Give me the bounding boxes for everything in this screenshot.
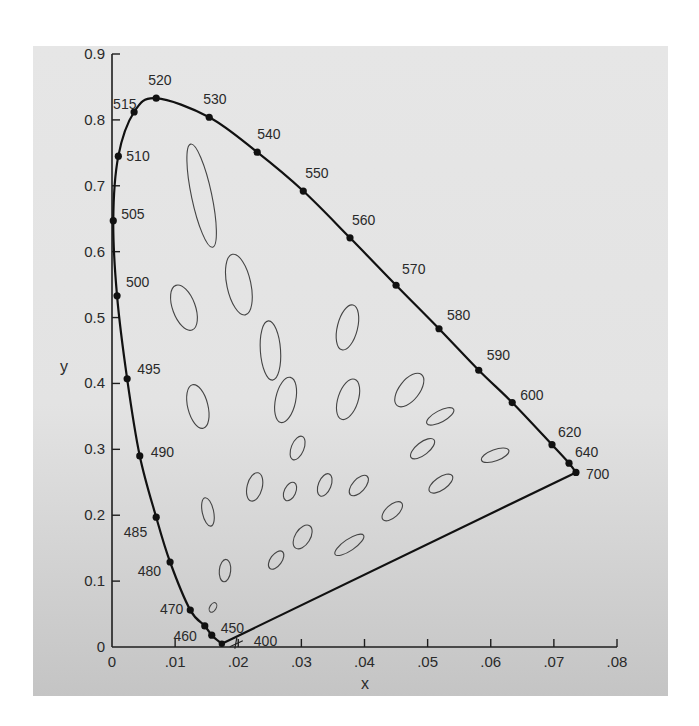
wavelength-label: 580 (447, 307, 471, 323)
wavelength-point (110, 217, 117, 224)
y-tick-label: 0.4 (84, 374, 105, 391)
x-tick-label: .04 (354, 653, 375, 670)
y-tick-label: 0.3 (84, 440, 105, 457)
macadam-ellipse (389, 368, 429, 412)
macadam-ellipse (265, 548, 287, 572)
y-tick-label: 0.9 (84, 45, 105, 62)
x-axis-title: x (361, 675, 369, 692)
wavelength-point (136, 452, 143, 459)
wavelength-point (219, 641, 225, 647)
wavelength-label: 530 (203, 91, 227, 107)
y-tick-label: 0.8 (84, 111, 105, 128)
x-tick-label: 0 (108, 653, 116, 670)
wavelength-label: 450 (221, 620, 245, 636)
y-tick-label: 0.1 (84, 572, 105, 589)
wavelength-label: 600 (520, 387, 544, 403)
wavelength-label: 470 (160, 601, 184, 617)
wavelength-point (153, 95, 160, 102)
wavelength-point (300, 187, 307, 194)
ellipse-group (165, 142, 511, 614)
y-tick-label: 0 (97, 638, 105, 655)
x-tick-label: .08 (607, 653, 628, 670)
wavelength-label: 400 (254, 633, 278, 649)
x-tick-label: .06 (480, 653, 501, 670)
y-tick-label: 0.7 (84, 177, 105, 194)
wavelength-point (201, 622, 208, 629)
wavelength-label: 620 (558, 424, 582, 440)
wavelength-label: 640 (575, 444, 599, 460)
wavelength-point (115, 153, 122, 160)
wavelength-label: 515 (113, 96, 137, 112)
macadam-ellipse (332, 376, 364, 422)
wavelength-point (565, 460, 572, 467)
wavelength-label: 505 (121, 206, 145, 222)
y-tick-label: 0.6 (84, 243, 105, 260)
macadam-ellipse (218, 559, 232, 582)
wavelength-point (113, 292, 120, 299)
macadam-ellipse (379, 498, 406, 524)
macadam-ellipse (199, 497, 216, 528)
wavelength-point (392, 282, 399, 289)
wavelength-labels: 7006406206005905805705605505405305205155… (110, 72, 610, 649)
chromaticity-chart: 00.10.20.30.40.50.60.70.80.90.01.02.03.0… (0, 0, 699, 726)
x-tick-label: .07 (543, 653, 564, 670)
wavelength-point (208, 632, 215, 639)
wavelength-point (346, 234, 353, 241)
macadam-ellipse (165, 281, 203, 333)
y-tick-label: 0.2 (84, 506, 105, 523)
wavelength-point (509, 399, 516, 406)
wavelength-point (187, 607, 194, 614)
macadam-ellipse (480, 445, 511, 466)
wavelength-label: 590 (487, 347, 511, 363)
macadam-ellipse (271, 375, 300, 424)
macadam-ellipse (221, 252, 257, 318)
wavelength-label: 495 (137, 361, 161, 377)
macadam-ellipse (332, 303, 363, 353)
wavelength-point (435, 325, 442, 332)
x-tick-label: .05 (417, 653, 438, 670)
wavelength-point (166, 558, 173, 565)
wavelength-point (254, 149, 261, 156)
y-tick-label: 0.5 (84, 309, 105, 326)
wavelength-point (475, 367, 482, 374)
macadam-ellipse (314, 472, 335, 499)
macadam-ellipse (332, 531, 367, 560)
wavelength-label: 560 (352, 212, 376, 228)
macadam-ellipse (181, 142, 223, 249)
x-tick-label: .03 (291, 653, 312, 670)
macadam-ellipse (183, 382, 213, 430)
macadam-ellipse (281, 480, 300, 503)
wavelength-label: 700 (586, 466, 610, 482)
macadam-ellipse (424, 404, 456, 428)
axes: 00.10.20.30.40.50.60.70.80.90.01.02.03.0… (84, 45, 627, 670)
wavelength-point (548, 441, 555, 448)
wavelength-point (124, 375, 131, 382)
macadam-ellipse (258, 320, 282, 381)
spectral-locus-curve (113, 98, 576, 644)
y-axis-title: y (60, 358, 68, 375)
wavelength-label: 460 (173, 628, 197, 644)
macadam-ellipse (346, 472, 372, 499)
wavelength-label: 570 (402, 261, 426, 277)
macadam-ellipse (407, 435, 438, 463)
wavelength-label: 480 (138, 563, 162, 579)
macadam-ellipse (244, 471, 266, 503)
x-tick-label: .01 (165, 653, 186, 670)
wavelength-label: 485 (124, 524, 148, 540)
macadam-ellipse (426, 470, 456, 496)
wavelength-label: 520 (148, 72, 172, 88)
wavelength-label: 540 (257, 126, 281, 142)
macadam-ellipse (208, 601, 219, 613)
wavelength-label: 500 (126, 274, 150, 290)
x-tick-label: .02 (228, 653, 249, 670)
wavelength-point (572, 469, 579, 476)
spectral-locus (113, 98, 576, 644)
line-of-purples (222, 472, 576, 643)
wavelength-label: 510 (126, 148, 150, 164)
wavelength-label: 550 (305, 165, 329, 181)
wavelength-point (153, 514, 160, 521)
macadam-ellipse (287, 434, 308, 462)
macadam-ellipse (289, 522, 316, 552)
wavelength-label: 490 (151, 444, 175, 460)
wavelength-point (206, 114, 213, 121)
